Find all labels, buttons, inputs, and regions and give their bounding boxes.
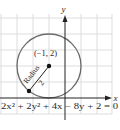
radius-endpoint (27, 89, 31, 93)
circle-diagram: y x (−1, 2) Radius 2 2x² + 2y² + 4x − 8y… (0, 0, 120, 130)
equation-label: 2x² + 2y² + 4x − 8y + 2 = 0 (1, 102, 118, 111)
center-label: (−1, 2) (34, 48, 57, 58)
y-axis-arrow-icon (63, 15, 68, 22)
y-axis-label: y (61, 4, 66, 14)
center-point (47, 64, 51, 68)
radius-value-label: 2 (36, 79, 46, 88)
x-axis-arrow-icon (105, 96, 112, 101)
